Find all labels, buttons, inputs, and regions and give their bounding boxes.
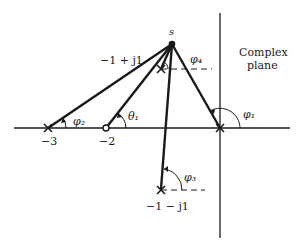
label-minus2: −2 bbox=[99, 135, 115, 148]
angle-phi2-label: φ₂ bbox=[73, 115, 85, 128]
arrow-phi3 bbox=[164, 166, 168, 172]
label-pole-lower: −1 − j1 bbox=[146, 200, 189, 213]
plane-label-line2: plane bbox=[247, 59, 278, 72]
label-pole-upper: −1 + j1 bbox=[100, 54, 143, 67]
arc-phi3 bbox=[164, 169, 182, 190]
angle-phi4-label: φ₄ bbox=[190, 53, 202, 66]
angle-phi1-label: φ₁ bbox=[243, 108, 255, 121]
test-point-s bbox=[169, 41, 176, 48]
zero-minus2-marker bbox=[103, 125, 109, 131]
angle-phi3-label: φ₃ bbox=[184, 171, 196, 184]
complex-plane-diagram: s −1 + j1 −1 − j1 −3 −2 Complex plane φ₁… bbox=[0, 0, 298, 246]
test-point-label: s bbox=[169, 26, 174, 37]
plane-label-line1: Complex bbox=[239, 46, 289, 59]
label-minus3: −3 bbox=[41, 135, 57, 148]
angle-theta1-label: θ₁ bbox=[128, 110, 139, 123]
